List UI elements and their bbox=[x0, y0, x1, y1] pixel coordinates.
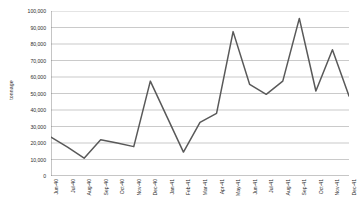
x-tick-label: Jul-41 bbox=[268, 179, 274, 193]
x-tick-label: Feb-41 bbox=[185, 179, 191, 195]
x-tick-label: Dec-40 bbox=[152, 179, 158, 195]
x-tick-label: Nov-41 bbox=[334, 179, 340, 195]
x-tick-label: Oct-40 bbox=[119, 179, 125, 194]
x-tick-label: Jul-40 bbox=[70, 179, 76, 193]
y-tick-label: 70,000 bbox=[30, 58, 46, 64]
x-tick-label: Jun-41 bbox=[252, 179, 258, 195]
x-tick-label: Nov-40 bbox=[136, 179, 142, 195]
gridlines bbox=[51, 11, 349, 160]
y-tick-label: 80,000 bbox=[30, 41, 46, 47]
y-tick-label: 60,000 bbox=[30, 74, 46, 80]
x-tick-label: Apr-41 bbox=[219, 179, 225, 194]
x-tick-label: Sep-40 bbox=[103, 179, 109, 195]
y-tick-label: 40,000 bbox=[30, 107, 46, 113]
line-chart: tonnage 100,00090,00080,00070,00060,0005… bbox=[0, 0, 363, 211]
y-axis-tick-labels: 100,00090,00080,00070,00060,00050,00040,… bbox=[14, 0, 49, 211]
x-tick-label: Sep-41 bbox=[301, 179, 307, 195]
plot-svg bbox=[51, 11, 349, 176]
x-tick-label: Mar-41 bbox=[202, 179, 208, 195]
x-tick-label: Jun-40 bbox=[53, 179, 59, 195]
y-tick-label: 90,000 bbox=[30, 25, 46, 31]
x-tick-label: Aug-41 bbox=[285, 179, 291, 195]
x-tick-label: Dec-41 bbox=[351, 179, 357, 195]
y-tick-label: 100,000 bbox=[28, 8, 46, 14]
y-tick-label: 10,000 bbox=[30, 157, 46, 163]
x-axis-tick-labels: Jun-40Jul-40Aug-40Sep-40Oct-40Nov-40Dec-… bbox=[51, 177, 349, 211]
x-tick-label: Aug-40 bbox=[86, 179, 92, 195]
x-tick-label: Jan-41 bbox=[169, 179, 175, 195]
y-tick-label: 0 bbox=[43, 173, 46, 179]
x-tick-label: Oct-41 bbox=[318, 179, 324, 194]
plot-area bbox=[51, 11, 349, 176]
data-series-line bbox=[51, 18, 349, 158]
x-tick-label: May-41 bbox=[235, 179, 241, 196]
y-tick-label: 30,000 bbox=[30, 124, 46, 130]
y-tick-label: 50,000 bbox=[30, 91, 46, 97]
y-tick-label: 20,000 bbox=[30, 140, 46, 146]
